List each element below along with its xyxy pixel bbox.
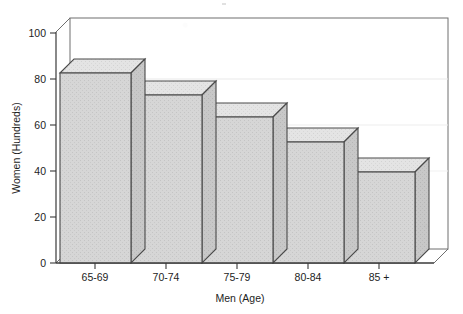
x-tick-label-70-74: 70-74 (153, 271, 180, 283)
x-tick-label-80-84: 80-84 (295, 271, 322, 283)
y-tick-20: 20 (34, 211, 56, 223)
y-tick-100: 100 (28, 27, 56, 39)
x-axis: 65-69 70-74 75-79 80-84 85 + (82, 263, 390, 283)
bar-chart-3d: 100 80 60 40 20 0 Women (0, 0, 463, 314)
chart-container: 100 80 60 40 20 0 Women (0, 0, 463, 314)
y-axis: 100 80 60 40 20 0 (28, 27, 56, 269)
x-tick-label-65-69: 65-69 (82, 271, 109, 283)
y-tick-label: 60 (34, 119, 46, 131)
scan-speck (222, 3, 226, 5)
y-axis-title: Women (Hundreds) (10, 102, 22, 193)
y-tick-label: 80 (34, 73, 46, 85)
y-tick-label: 0 (40, 257, 46, 269)
y-tick-40: 40 (34, 165, 56, 177)
y-tick-0: 0 (40, 257, 56, 269)
y-tick-label: 100 (28, 27, 46, 39)
y-tick-80: 80 (34, 73, 56, 85)
x-tick-label-75-79: 75-79 (224, 271, 251, 283)
y-tick-label: 20 (34, 211, 46, 223)
y-tick-label: 40 (34, 165, 46, 177)
y-tick-60: 60 (34, 119, 56, 131)
x-tick-label-85-plus: 85 + (369, 271, 390, 283)
bar-65-69 (60, 59, 145, 263)
x-axis-title: Men (Age) (215, 292, 264, 304)
